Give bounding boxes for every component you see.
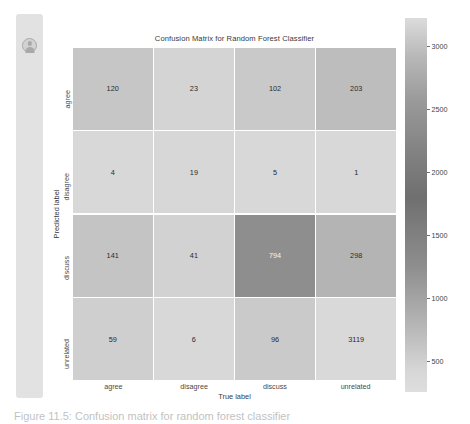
document-page: Confusion Matrix for Random Forest Class… [0, 0, 470, 424]
chart-title: Confusion Matrix for Random Forest Class… [73, 34, 396, 43]
figure-caption: Figure 11.5: Confusion matrix for random… [14, 410, 454, 422]
heatmap-cell-value: 5 [273, 168, 277, 177]
heatmap-cell: 96 [235, 298, 315, 380]
colorbar-tick-text: 2500 [432, 105, 448, 114]
heatmap-cell: 19 [154, 131, 234, 213]
left-side-strip [16, 14, 43, 398]
colorbar-tick-text: 1500 [432, 231, 448, 240]
colorbar-tick-mark [427, 46, 430, 47]
y-axis-tick-text: unrelated [63, 339, 72, 369]
heatmap-cell-value: 102 [269, 84, 281, 93]
heatmap-cell-value: 41 [190, 251, 198, 260]
heatmap-cell-value: 96 [271, 335, 279, 344]
colorbar: 30002500200015001000500 [405, 18, 453, 392]
colorbar-tick-text: 2000 [432, 168, 448, 177]
colorbar-gradient [405, 18, 427, 392]
heatmap-cell-value: 794 [269, 251, 281, 260]
heatmap-cell: 298 [316, 215, 396, 297]
x-axis-label: True label [73, 392, 396, 401]
heatmap-cell-value: 141 [107, 251, 119, 260]
heatmap-cell: 5 [235, 131, 315, 213]
y-axis-label: Predicted label [50, 48, 62, 380]
heatmap-cell: 1 [316, 131, 396, 213]
colorbar-tick-mark [427, 109, 430, 110]
colorbar-tick-text: 3000 [432, 42, 448, 51]
heatmap-cell-value: 298 [350, 251, 362, 260]
heatmap-cell: 3119 [316, 298, 396, 380]
heatmap-cell: 102 [235, 48, 315, 130]
colorbar-tick-mark [427, 235, 430, 236]
colorbar-tick-mark [427, 172, 430, 173]
heatmap-plot-area: 120231022034195114141794298596963119 [73, 48, 396, 380]
y-axis-label-text: Predicted label [52, 190, 61, 239]
heatmap-cell: 794 [235, 215, 315, 297]
heatmap-cell-value: 6 [192, 335, 196, 344]
colorbar-tick-text: 1000 [432, 294, 448, 303]
x-axis-tick-text: agree [73, 382, 154, 391]
heatmap-cell-value: 120 [107, 84, 119, 93]
heatmap-cell-value: 3119 [348, 335, 364, 344]
x-axis-tick-text: disagree [154, 382, 235, 391]
heatmap-cell-value: 59 [109, 335, 117, 344]
colorbar-tick-mark [427, 361, 430, 362]
y-axis-tick-text: discuss [63, 256, 72, 280]
confusion-matrix-figure: Confusion Matrix for Random Forest Class… [50, 14, 454, 398]
person-avatar-icon [22, 38, 37, 53]
colorbar-tick-labels: 30002500200015001000500 [427, 18, 453, 392]
x-axis-tick-text: unrelated [315, 382, 396, 391]
heatmap-cell: 203 [316, 48, 396, 130]
heatmap-cell-value: 203 [350, 84, 362, 93]
heatmap-cell-value: 19 [190, 168, 198, 177]
y-axis-tick-text: disagree [63, 173, 72, 201]
x-axis-tick-labels: agreedisagreediscussunrelated [73, 382, 396, 391]
y-axis-tick-text: agree [63, 90, 72, 108]
heatmap-cell-value: 23 [190, 84, 198, 93]
heatmap-cell: 6 [154, 298, 234, 380]
x-axis-tick-text: discuss [235, 382, 316, 391]
heatmap-cell: 41 [154, 215, 234, 297]
heatmap-grid: 120231022034195114141794298596963119 [73, 48, 396, 380]
heatmap-cell: 141 [73, 215, 153, 297]
colorbar-tick-text: 500 [432, 357, 444, 366]
heatmap-cell-value: 4 [111, 168, 115, 177]
heatmap-cell: 23 [154, 48, 234, 130]
heatmap-cell: 4 [73, 131, 153, 213]
colorbar-tick-mark [427, 298, 430, 299]
heatmap-cell: 120 [73, 48, 153, 130]
heatmap-cell-value: 1 [354, 168, 358, 177]
heatmap-cell: 59 [73, 298, 153, 380]
